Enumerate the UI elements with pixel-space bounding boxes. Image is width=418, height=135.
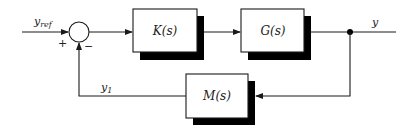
reference-signal-label: yref: [33, 15, 54, 29]
measurement-label: M(s): [202, 89, 231, 103]
measurement-block: M(s): [186, 74, 255, 125]
output-signal-label: y: [371, 16, 379, 29]
controller-block: K(s): [133, 9, 204, 60]
controller-label: K(s): [152, 24, 178, 38]
plant-block: G(s): [241, 9, 311, 60]
plus-sign: +: [58, 37, 67, 50]
minus-sign: −: [84, 40, 93, 53]
plant-label: G(s): [260, 24, 285, 38]
summing-junction: [69, 22, 89, 42]
block-diagram: yref + − K(s) G(s) y M(s) y1: [0, 0, 418, 135]
feedback-signal-label: y1: [100, 81, 112, 95]
